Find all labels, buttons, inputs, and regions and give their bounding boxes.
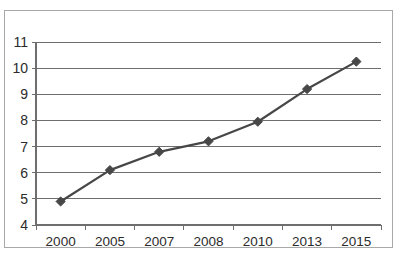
data-point-marker (352, 57, 361, 66)
x-axis-tick-marks (36, 225, 381, 230)
line-chart-plot: 4567891011 2000200520072008201020132015 (5, 11, 394, 249)
x-axis-tick-label: 2013 (292, 234, 322, 249)
x-axis-tick-label: 2007 (144, 234, 174, 249)
y-axis-tick-label: 10 (12, 60, 28, 76)
y-axis-tick-labels: 4567891011 (12, 34, 28, 233)
series-line-path (61, 62, 357, 202)
x-axis-tick-label: 2015 (341, 234, 371, 249)
x-axis-tick-labels: 2000200520072008201020132015 (46, 234, 372, 249)
x-axis-tick-label: 2008 (193, 234, 223, 249)
y-axis-tick-label: 4 (20, 217, 28, 233)
y-axis-tick-label: 8 (20, 112, 28, 128)
series-markers-group (56, 57, 361, 206)
x-axis-tick-label: 2010 (243, 234, 273, 249)
gridlines-group (36, 42, 381, 225)
data-point-marker (204, 137, 213, 146)
x-axis-tick-label: 2000 (46, 234, 76, 249)
y-axis-tick-label: 6 (20, 165, 28, 181)
y-axis-tick-label: 7 (20, 139, 28, 155)
y-axis-tick-label: 11 (13, 34, 28, 50)
data-point-marker (155, 147, 164, 156)
y-axis-tick-label: 5 (20, 191, 28, 207)
x-axis-tick-label: 2005 (95, 234, 125, 249)
y-axis-tick-label: 9 (20, 86, 28, 102)
chart-figure: 4567891011 2000200520072008201020132015 (4, 10, 393, 248)
